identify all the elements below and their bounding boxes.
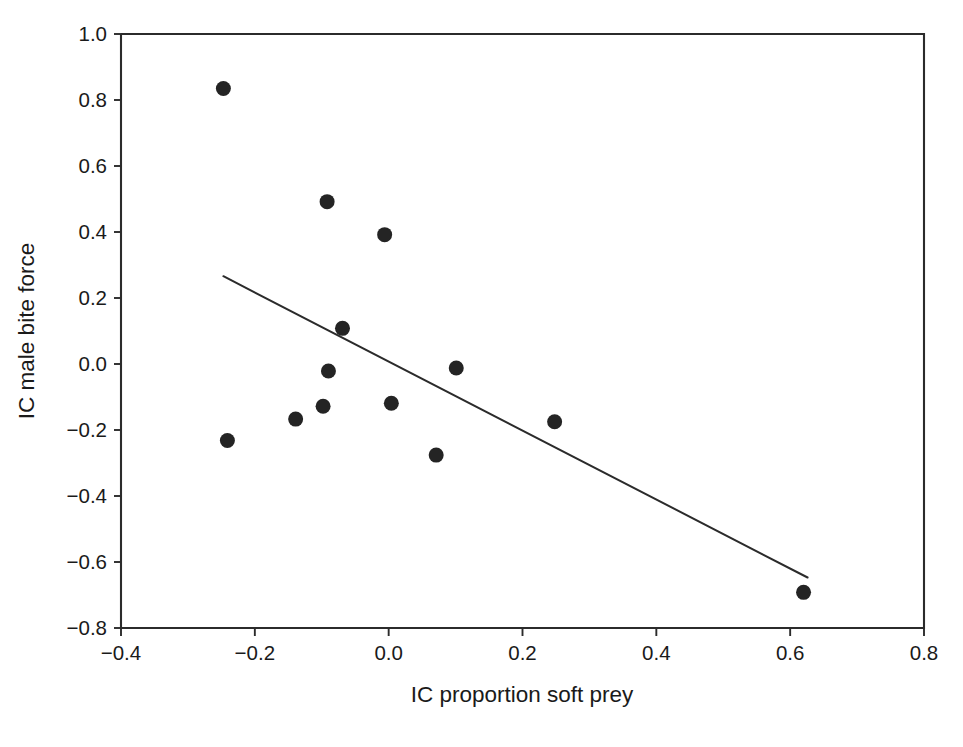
y-tick-label: 0.0	[79, 352, 108, 375]
data-point	[316, 399, 331, 414]
trend-line-group	[223, 276, 807, 577]
y-tick-label: −0.6	[67, 550, 107, 573]
data-point	[320, 194, 335, 209]
data-point	[335, 321, 350, 336]
data-point	[547, 414, 562, 429]
x-axis-ticks: −0.4−0.20.00.20.40.60.8	[101, 628, 938, 664]
data-point	[384, 396, 399, 411]
data-point	[429, 448, 444, 463]
data-point-series	[216, 81, 811, 600]
y-tick-label: 0.2	[79, 286, 108, 309]
x-tick-label: 0.6	[776, 641, 805, 664]
x-axis-title: IC proportion soft prey	[411, 682, 634, 707]
figure-page: 1.00.80.60.40.20.0−0.2−0.4−0.6−0.8 −0.4−…	[0, 0, 963, 747]
data-point	[377, 227, 392, 242]
y-tick-label: −0.4	[67, 484, 107, 507]
y-tick-label: 0.4	[79, 220, 108, 243]
x-tick-label: 0.4	[642, 641, 671, 664]
data-point	[288, 412, 303, 427]
x-tick-label: 0.2	[508, 641, 537, 664]
data-point	[216, 81, 231, 96]
data-point	[220, 433, 235, 448]
y-tick-label: 1.0	[79, 22, 108, 45]
x-tick-label: 0.8	[910, 641, 939, 664]
plot-frame	[121, 34, 924, 628]
x-tick-label: −0.2	[235, 641, 275, 664]
data-point	[321, 363, 336, 378]
x-tick-label: −0.4	[101, 641, 141, 664]
y-tick-label: 0.6	[79, 154, 108, 177]
data-point	[449, 360, 464, 375]
plot-border	[121, 34, 924, 628]
y-tick-label: 0.8	[79, 88, 108, 111]
y-axis-title: IC male bite force	[14, 243, 39, 419]
x-tick-label: 0.0	[374, 641, 403, 664]
y-tick-label: −0.2	[67, 418, 107, 441]
partial-caption-text	[105, 722, 865, 744]
scatter-plot-figure: 1.00.80.60.40.20.0−0.2−0.4−0.6−0.8 −0.4−…	[0, 0, 963, 747]
data-point	[796, 585, 811, 600]
y-axis-ticks: 1.00.80.60.40.20.0−0.2−0.4−0.6−0.8	[67, 22, 121, 639]
regression-trend-line	[223, 276, 807, 577]
y-tick-label: −0.8	[67, 616, 107, 639]
